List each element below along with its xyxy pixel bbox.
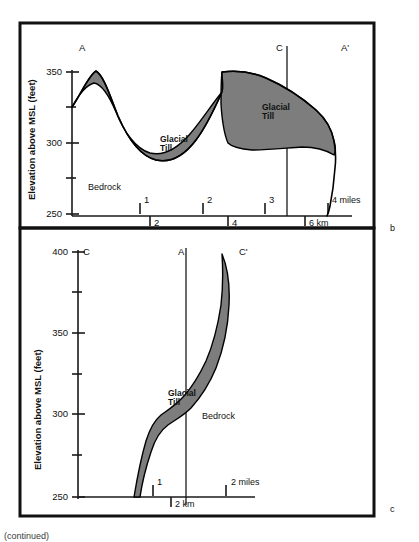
panel-b-ylabel-300: 300 xyxy=(46,137,62,148)
panel-c-ylabel-250: 250 xyxy=(52,491,68,502)
panel-c-endpoint-left: C xyxy=(83,246,90,257)
panel-b-till-label-left-line2: Till xyxy=(160,143,172,153)
panel-b-till-body-left xyxy=(72,71,222,161)
panel-c-till-label-line2: Till xyxy=(168,397,180,407)
panel-c-frame xyxy=(20,228,374,516)
panel-c-bedrock-label: Bedrock xyxy=(202,411,236,421)
panel-b-endpoint-right: A' xyxy=(341,42,349,53)
panel-b-xlabel-km-2: 2 xyxy=(154,217,159,228)
panel-b-y-axis-title: Elevation above MSL (feet) xyxy=(26,79,37,200)
panel-letter-b: b xyxy=(390,223,395,233)
panel-b-xlabel-km-4: 4 xyxy=(232,217,237,228)
panel-c-ylabel-400: 400 xyxy=(52,246,68,257)
panel-c-intersection-label: A xyxy=(178,246,185,257)
figure-container: 350 300 250 Elevation above MSL (feet) 1… xyxy=(0,0,419,542)
panel-letter-c: c xyxy=(390,504,395,514)
panel-c-xlabel-miles-unit: 2 miles xyxy=(231,477,260,487)
panel-c-ylabel-350: 350 xyxy=(52,327,68,338)
panel-c-xlabel-km-unit: 2 km xyxy=(175,499,195,509)
panel-b-bedrock-label: Bedrock xyxy=(88,182,122,192)
panel-c: 400 350 300 250 Elevation above MSL (fee… xyxy=(32,246,260,509)
panel-b-xlabel-km-unit: 6 km xyxy=(309,218,329,228)
panel-c-y-axis-title: Elevation above MSL (feet) xyxy=(32,349,43,470)
panel-b-endpoint-left: A xyxy=(79,42,86,53)
panel-c-xlabel-mile-1: 1 xyxy=(157,476,162,487)
panel-b-till-label-right-line2: Till xyxy=(262,111,274,121)
panel-c-endpoint-right: C' xyxy=(239,246,248,257)
panel-b-ylabel-250: 250 xyxy=(46,208,62,219)
panel-b-ylabel-350: 350 xyxy=(46,66,62,77)
panel-b: 350 300 250 Elevation above MSL (feet) 1… xyxy=(26,42,361,228)
panel-b-xlabel-miles-unit: 4 miles xyxy=(332,195,361,205)
panel-c-till-body xyxy=(134,254,229,497)
panel-b-xlabel-mile-1: 1 xyxy=(144,194,149,205)
figure-caption: (continued) xyxy=(4,531,49,541)
panel-b-xlabel-mile-3: 3 xyxy=(269,194,274,205)
panel-b-intersection-label: C xyxy=(276,42,283,53)
panel-b-xlabel-mile-2: 2 xyxy=(207,194,212,205)
panel-c-ylabel-300: 300 xyxy=(52,408,68,419)
